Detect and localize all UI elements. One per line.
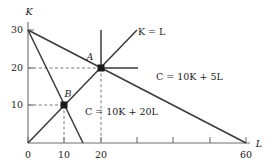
isocost-line-flat — [28, 30, 246, 143]
y-axis-label: K — [24, 6, 33, 17]
point-marker-b[interactable] — [61, 102, 68, 109]
point-label-b: B — [64, 88, 72, 99]
axes-group — [28, 22, 250, 143]
point-label-a: A — [86, 51, 94, 62]
x-tick-label-60: 60 — [240, 149, 252, 160]
isocost-isoquant-chart: A B K L 30 20 10 0 10 20 60 K = L C = 10… — [0, 0, 276, 168]
ray-equation-label: K = L — [138, 26, 166, 37]
x-axis-ticks — [28, 137, 246, 143]
y-tick-label-20: 20 — [11, 62, 23, 73]
ray-k-equals-l — [28, 30, 137, 143]
isocost-flat-label: C = 10K + 5L — [156, 71, 223, 82]
y-tick-label-30: 30 — [11, 24, 23, 35]
curves-group — [28, 30, 246, 143]
point-marker-a[interactable] — [98, 65, 105, 72]
isocost-steep-label: C = 10K + 20L — [85, 106, 159, 117]
x-tick-label-0: 0 — [25, 149, 31, 160]
x-axis-label: L — [255, 138, 262, 149]
x-tick-label-20: 20 — [95, 149, 107, 160]
y-tick-label-10: 10 — [11, 99, 23, 110]
isocost-line-steep — [28, 30, 83, 143]
x-tick-label-10: 10 — [58, 149, 70, 160]
